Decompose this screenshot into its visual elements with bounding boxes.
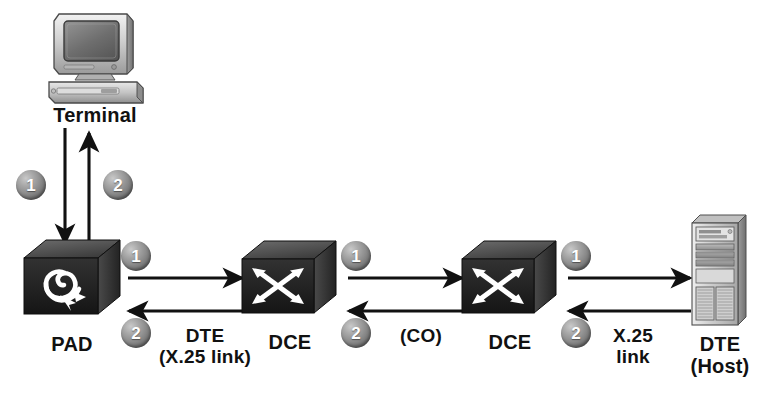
link-label-dce-dce-line1: (CO) <box>400 325 442 346</box>
badge-dce-right-out: 1 <box>561 241 591 271</box>
host-label-line1: DTE <box>700 333 741 355</box>
dce-left-label: DCE <box>269 331 312 353</box>
network-diagram: Terminal 1 2 <box>0 0 779 396</box>
badge-dce-right-in: 2 <box>561 318 591 348</box>
dce-left-node <box>236 235 344 335</box>
spiral-arrow-icon <box>16 234 128 332</box>
link-label-dce-host: X.25 link <box>613 325 653 368</box>
pad-label: PAD <box>51 333 92 355</box>
dce-right-label: DCE <box>489 331 532 353</box>
pad-node <box>16 234 128 336</box>
terminal-node <box>41 8 149 116</box>
badge-terminal-down: 1 <box>16 170 46 200</box>
switch-cross-arrows-icon <box>456 235 564 331</box>
host-node <box>684 211 756 333</box>
link-label-dce-dce: (CO) <box>400 325 442 346</box>
link-label-dce-host-line1: X.25 <box>613 325 653 346</box>
dce-right-node <box>456 235 564 335</box>
badge-dce-left-in: 2 <box>341 318 371 348</box>
badge-terminal-up: 2 <box>103 170 133 200</box>
link-label-dce-host-line2: link <box>613 346 653 367</box>
crt-terminal-icon <box>41 8 149 112</box>
badge-pad-out: 1 <box>121 241 151 271</box>
host-label-line2: (Host) <box>691 355 750 377</box>
link-label-pad-dce-line1: DTE <box>186 325 225 346</box>
switch-cross-arrows-icon <box>236 235 344 331</box>
badge-dce-left-out: 1 <box>341 241 371 271</box>
badge-pad-in: 2 <box>121 318 151 348</box>
terminal-label: Terminal <box>53 104 136 126</box>
link-label-pad-dce-line2: (X.25 link) <box>159 346 251 367</box>
tower-server-icon <box>684 211 756 329</box>
host-label: DTE (Host) <box>691 333 750 378</box>
